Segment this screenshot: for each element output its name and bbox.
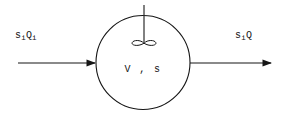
inlet-quantity-subscript: i [32, 34, 37, 42]
tank-vessel-circle [96, 16, 190, 110]
impeller-blade-right [144, 40, 156, 45]
diagram-canvas: siQi siQ V , s [0, 0, 283, 115]
inlet-stream-label: siQi [15, 30, 37, 41]
impeller-blade-left [132, 40, 144, 45]
outlet-symbol-subscript: i [241, 34, 246, 42]
outlet-quantity: Q [246, 30, 252, 41]
inlet-symbol-subscript: i [21, 34, 26, 42]
tank-contents-label: V , s [96, 64, 190, 75]
outlet-stream-label: siQ [235, 30, 252, 41]
cstr-diagram [0, 0, 283, 115]
inlet-arrow-head [87, 60, 97, 67]
outlet-arrow-head [263, 60, 273, 67]
inlet-arrow [18, 60, 96, 67]
stirrer-assembly [132, 5, 156, 45]
outlet-arrow [190, 60, 272, 67]
